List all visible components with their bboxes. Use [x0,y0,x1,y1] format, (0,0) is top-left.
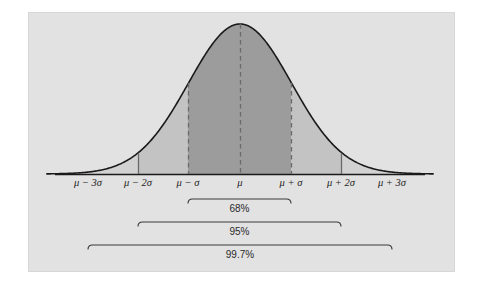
axis-tick-label-plus-2-sigma: μ + 2σ [326,177,356,188]
axis-tick-label-minus-2-sigma: μ − 2σ [123,177,153,188]
bracket-997-label: 99.7% [226,249,254,260]
axis-tick-label-plus-1-sigma: μ + σ [279,177,304,188]
figure-canvas: μ − 3σμ − 2σμ − σμμ + σμ + 2σμ + 3σ 68%9… [0,0,477,286]
axis-tick-label-minus-1-sigma: μ − σ [176,177,201,188]
axis-tick-label-plus-3-sigma: μ + 3σ [377,177,407,188]
axis-tick-label-minus-3-sigma: μ − 3σ [73,177,103,188]
bracket-95-label: 95% [229,226,249,237]
bracket-68-label: 68% [229,203,249,214]
normal-distribution-figure: μ − 3σμ − 2σμ − σμμ + σμ + 2σμ + 3σ 68%9… [0,0,477,286]
axis-tick-label-mu: μ [236,177,242,188]
